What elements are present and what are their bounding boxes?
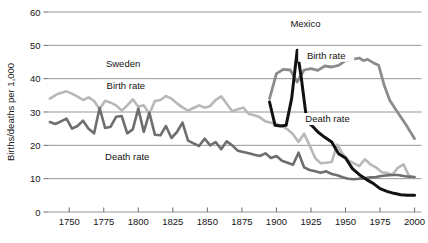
gridlines	[49, 12, 422, 212]
series-line-sweden-death-rate	[50, 108, 415, 179]
xtick-label-1850: 1850	[197, 216, 218, 227]
ytick-label-50: 50	[30, 40, 41, 51]
xtick-label-1925: 1925	[300, 216, 321, 227]
vital-rates-line-chart: 0102030405060 17501775180018251850187519…	[0, 0, 428, 243]
xtick-label-1825: 1825	[162, 216, 183, 227]
ytick-label-20: 20	[30, 140, 41, 151]
xtick-label-1950: 1950	[335, 216, 356, 227]
xtick-label-1900: 1900	[266, 216, 287, 227]
y-axis-tick-labels: 0102030405060	[30, 7, 49, 218]
xtick-label-1750: 1750	[59, 216, 80, 227]
annotation-sweden-birth: Birth rate	[107, 80, 146, 91]
ytick-label-0: 0	[35, 207, 40, 218]
xtick-label-1775: 1775	[93, 216, 114, 227]
chart-container: 0102030405060 17501775180018251850187519…	[0, 0, 428, 243]
xtick-label-2000: 2000	[404, 216, 425, 227]
annotation-mexico-group: Mexico	[290, 18, 320, 29]
ytick-label-10: 10	[30, 173, 41, 184]
x-axis-tick-labels: 1750177518001825185018751900192519501975…	[59, 216, 426, 227]
xtick-label-1975: 1975	[369, 216, 390, 227]
data-series	[50, 50, 415, 195]
xtick-label-1800: 1800	[128, 216, 149, 227]
axis-ticks	[69, 208, 414, 213]
y-axis-title: Births/deaths per 1,000	[5, 63, 16, 161]
ytick-label-60: 60	[30, 7, 41, 18]
ytick-label-40: 40	[30, 73, 41, 84]
annotation-mexico-death: Death rate	[305, 113, 349, 124]
ytick-label-30: 30	[30, 107, 41, 118]
series-line-sweden-birth-rate	[50, 91, 415, 178]
xtick-label-1875: 1875	[231, 216, 252, 227]
annotation-mexico-birth: Birth rate	[307, 50, 346, 61]
annotation-sweden-group: Sweden	[106, 58, 140, 69]
annotation-sweden-death: Death rate	[105, 151, 149, 162]
